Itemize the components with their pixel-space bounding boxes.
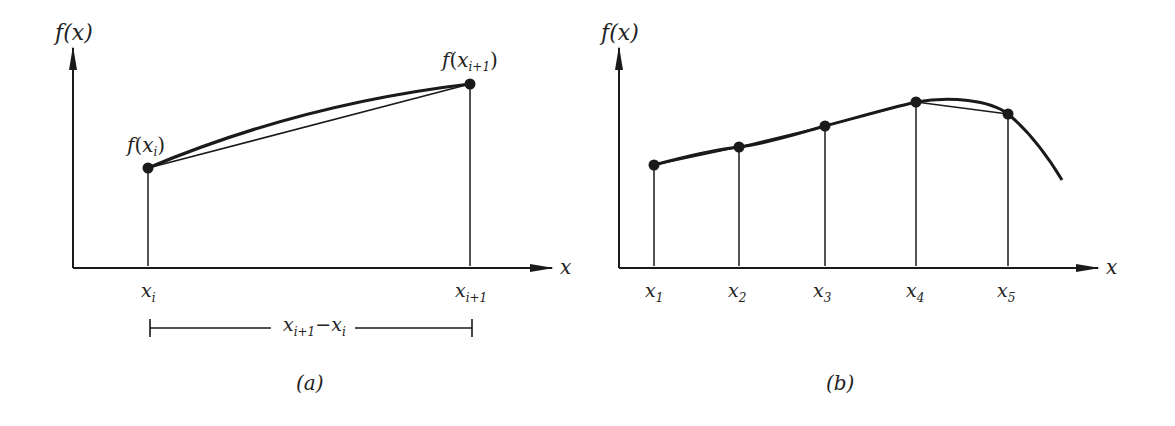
data-point-x1 — [649, 160, 660, 171]
panel-a: f(x) x f(xi) f(xi+1) xi xi+1 — [53, 20, 571, 395]
point-label-fxi: f(xi) — [125, 133, 165, 159]
tick-label-x2: x2 — [728, 279, 746, 305]
tick-label-x4: x4 — [906, 279, 924, 305]
interval-label: xi+1−xi — [283, 313, 346, 339]
point-label-fxi1: f(xi+1) — [440, 48, 498, 74]
tick-label-x3: x3 — [813, 279, 832, 305]
tick-label-x5: x5 — [997, 279, 1015, 305]
data-point-xi — [143, 163, 154, 174]
tick-label-xi1: xi+1 — [455, 279, 487, 305]
x-axis-label-a: x — [560, 255, 571, 279]
caption-b: (b) — [826, 371, 854, 395]
caption-a: (a) — [296, 371, 324, 395]
y-axis-label-a: f(x) — [53, 20, 93, 45]
linear-interpolant-a — [148, 84, 470, 168]
y-axis-label-b: f(x) — [599, 20, 639, 45]
data-point-x2 — [734, 142, 745, 153]
data-point-x4 — [911, 97, 922, 108]
function-curve-b — [654, 99, 1062, 180]
piecewise-linear-interpolant — [654, 102, 1008, 165]
interval-dimension: xi+1−xi — [150, 313, 472, 339]
panel-b: f(x) x x1 x2 x3 x4 x5 (b) — [599, 20, 1117, 395]
x-axis-label-b: x — [1106, 255, 1117, 279]
data-point-x5 — [1003, 109, 1014, 120]
data-point-xi1 — [465, 79, 476, 90]
tick-label-x1: x1 — [645, 279, 663, 305]
diagram-canvas: f(x) x f(xi) f(xi+1) xi xi+1 — [0, 0, 1175, 426]
data-point-x3 — [820, 121, 831, 132]
tick-label-xi: xi — [141, 279, 156, 305]
